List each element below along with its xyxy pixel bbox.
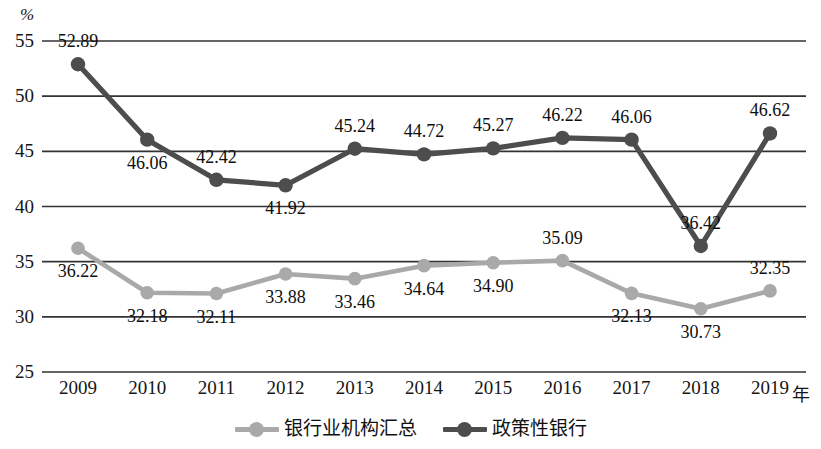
y-axis-tick-25: 25	[0, 362, 34, 381]
value-label: 32.18	[115, 307, 179, 325]
data-point[interactable]	[763, 284, 777, 298]
value-label: 42.42	[184, 148, 248, 166]
value-label: 32.35	[738, 259, 802, 277]
data-point[interactable]	[348, 141, 362, 155]
value-label: 35.09	[530, 229, 594, 247]
x-axis-tick-2011: 2011	[181, 378, 251, 397]
x-axis-tick-2018: 2018	[666, 378, 736, 397]
data-point[interactable]	[140, 132, 154, 146]
data-point[interactable]	[624, 132, 638, 146]
legend-item-light[interactable]: 银行业机构汇总	[235, 419, 417, 438]
legend-swatch-dark-icon	[443, 425, 487, 433]
value-label: 36.22	[46, 262, 110, 280]
value-label: 52.89	[46, 32, 110, 50]
x-axis-tick-2016: 2016	[527, 378, 597, 397]
legend-item-dark[interactable]: 政策性银行	[443, 419, 587, 438]
data-point[interactable]	[140, 286, 154, 300]
data-point[interactable]	[694, 302, 708, 316]
value-label: 33.46	[323, 293, 387, 311]
data-point[interactable]	[625, 287, 639, 301]
value-label: 30.73	[669, 323, 733, 341]
data-point[interactable]	[694, 239, 708, 253]
value-label: 34.90	[461, 277, 525, 295]
value-label: 36.42	[669, 214, 733, 232]
x-axis-tick-2013: 2013	[320, 378, 390, 397]
data-point[interactable]	[417, 147, 431, 161]
y-axis-tick-55: 55	[0, 31, 34, 50]
value-label: 41.92	[254, 199, 318, 217]
data-point[interactable]	[486, 141, 500, 155]
value-label: 45.27	[461, 116, 525, 134]
chart-legend: 银行业机构汇总 政策性银行	[0, 419, 821, 438]
value-label: 44.72	[392, 122, 456, 140]
data-point[interactable]	[763, 126, 777, 140]
x-axis-unit-label: 年	[792, 380, 810, 406]
value-label: 46.06	[115, 154, 179, 172]
legend-label-dark: 政策性银行	[492, 419, 587, 438]
x-axis-tick-2010: 2010	[112, 378, 182, 397]
value-label: 32.11	[184, 308, 248, 326]
value-label: 46.22	[530, 106, 594, 124]
data-point[interactable]	[279, 267, 293, 281]
value-label: 33.88	[254, 288, 318, 306]
data-point[interactable]	[348, 272, 362, 286]
chart-container: % 25303540455055 20092010201120122013201…	[0, 0, 821, 449]
y-axis-tick-40: 40	[0, 197, 34, 216]
data-point[interactable]	[71, 57, 85, 71]
value-label: 32.13	[600, 307, 664, 325]
x-axis-tick-2017: 2017	[597, 378, 667, 397]
data-point[interactable]	[555, 131, 569, 145]
data-point[interactable]	[210, 287, 224, 301]
data-point[interactable]	[71, 241, 85, 255]
x-axis-tick-2014: 2014	[389, 378, 459, 397]
y-axis-tick-45: 45	[0, 141, 34, 160]
data-point[interactable]	[486, 256, 500, 270]
y-axis-tick-50: 50	[0, 86, 34, 105]
legend-label-light: 银行业机构汇总	[284, 419, 417, 438]
x-axis-tick-2015: 2015	[458, 378, 528, 397]
value-label: 45.24	[323, 117, 387, 135]
x-axis-tick-2012: 2012	[251, 378, 321, 397]
y-axis-tick-30: 30	[0, 307, 34, 326]
data-point[interactable]	[417, 259, 431, 273]
data-point[interactable]	[278, 178, 292, 192]
data-point[interactable]	[556, 254, 570, 268]
value-label: 46.06	[600, 108, 664, 126]
data-point[interactable]	[209, 173, 223, 187]
legend-swatch-light-icon	[235, 425, 279, 433]
x-axis-tick-2009: 2009	[43, 378, 113, 397]
value-label: 46.62	[738, 101, 802, 119]
value-label: 34.64	[392, 280, 456, 298]
y-axis-tick-35: 35	[0, 252, 34, 271]
